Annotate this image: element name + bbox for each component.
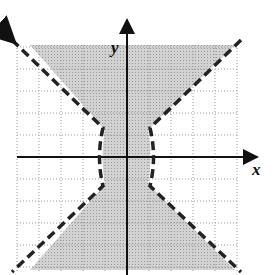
graph: [0, 0, 274, 275]
x-axis-label: x: [252, 160, 261, 180]
y-axis-label: y: [111, 38, 119, 58]
